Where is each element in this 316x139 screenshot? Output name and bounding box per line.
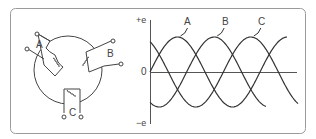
winding-a-label: A [36, 40, 43, 50]
curve-c-label: C [258, 17, 265, 27]
winding-b-terminal-2 [119, 62, 123, 66]
curve-b-label: B [222, 17, 229, 27]
curve-b-pointer [217, 28, 224, 36]
winding-b-terminal-1 [111, 39, 115, 43]
three-phase-diagram [0, 0, 316, 139]
winding-a-terminal-1 [35, 32, 39, 36]
y-axis-zero-label: 0 [141, 67, 147, 77]
y-axis-top-label: +e [136, 15, 146, 25]
winding-c-terminal-2 [79, 115, 83, 119]
winding-b-label: B [107, 49, 114, 59]
curve-a-pointer [181, 28, 188, 36]
winding-b-coil [86, 46, 104, 72]
winding-c-label: C [69, 108, 76, 118]
winding-a [25, 32, 63, 76]
winding-a-terminal-2 [25, 47, 29, 51]
curve-c-pointer [254, 28, 261, 36]
curve-label-pointers [181, 28, 261, 36]
y-axis-bottom-label: −e [136, 118, 146, 128]
curve-a-label: A [184, 17, 191, 27]
winding-c-terminal-1 [62, 115, 66, 119]
winding-b [83, 39, 123, 72]
